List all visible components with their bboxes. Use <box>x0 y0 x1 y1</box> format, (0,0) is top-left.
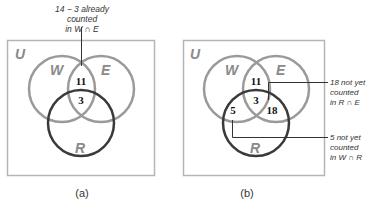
set-label-w-a: W <box>50 63 63 77</box>
region-w-e-b: 11 <box>246 76 266 87</box>
caption-a: (a) <box>72 188 92 199</box>
set-label-r-b: R <box>250 141 260 155</box>
annotation-a: 14 − 3 already counted in W ∩ E <box>40 4 124 34</box>
annotation-re-line1: 18 not yet <box>330 78 367 88</box>
annotation-re: 18 not yet counted in R ∩ E <box>330 78 367 108</box>
set-label-e-b: E <box>276 63 285 77</box>
region-w-e-r-a: 3 <box>71 95 91 106</box>
region-w-e-a: 11 <box>71 76 91 87</box>
caption-b: (b) <box>237 188 257 199</box>
annotation-wr-line3: in W ∩ R <box>330 153 367 163</box>
annotation-re-line3: in R ∩ E <box>330 98 367 108</box>
annotation-a-line1: 14 − 3 already counted <box>40 4 124 24</box>
annotation-re-line2: counted <box>330 88 367 98</box>
set-label-e-a: E <box>101 63 110 77</box>
annotation-wr-line2: counted <box>330 143 367 153</box>
set-label-w-b: W <box>225 63 238 77</box>
annotation-a-line2: in W ∩ E <box>40 24 124 34</box>
set-label-r-a: R <box>75 141 85 155</box>
universe-label-a: U <box>15 47 25 61</box>
annotation-wr: 5 not yet counted in W ∩ R <box>330 133 367 163</box>
universe-label-b: U <box>190 47 200 61</box>
annotation-wr-line1: 5 not yet <box>330 133 367 143</box>
region-r-e-b: 18 <box>262 105 282 116</box>
region-w-r-b: 5 <box>226 105 240 116</box>
